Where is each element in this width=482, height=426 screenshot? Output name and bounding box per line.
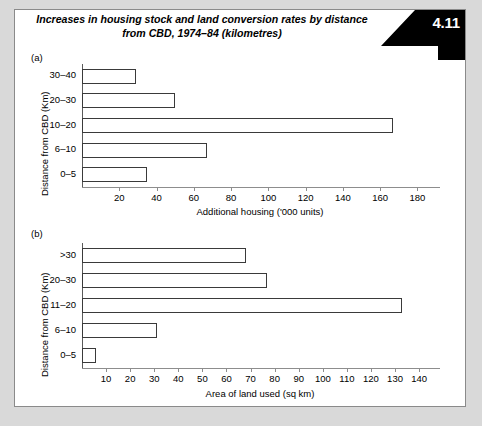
bar (82, 118, 393, 133)
bar (82, 248, 246, 263)
x-axis-title-b: Area of land used (sq km) (82, 388, 438, 399)
x-axis-tick (231, 187, 232, 191)
x-axis-tick (157, 187, 158, 191)
x-axis-tick (299, 368, 300, 372)
x-axis-tick (371, 368, 372, 372)
chart-panel-a: (a) Distance from CBD (Km) 0–56–1010–202… (15, 46, 466, 221)
x-axis-tick (417, 187, 418, 191)
x-axis-line-b (82, 368, 440, 369)
category-label: 6–10 (30, 324, 76, 335)
x-axis-line-a (82, 187, 440, 188)
category-label: 0–5 (30, 349, 76, 360)
category-label: 20–30 (30, 274, 76, 285)
category-label: 20–30 (30, 94, 76, 105)
x-axis-tick (202, 368, 203, 372)
x-axis-tick (306, 187, 307, 191)
x-axis-tick (275, 368, 276, 372)
bar (82, 93, 175, 108)
x-axis-tick (347, 368, 348, 372)
x-axis-tick (130, 368, 131, 372)
chart-panel-b: (b) Distance from CBD (Km) 0–56–1011–202… (15, 222, 466, 407)
x-axis-tick-label: 180 (397, 192, 437, 203)
figure-container: Increases in housing stock and land conv… (14, 9, 466, 407)
x-axis-tick (343, 187, 344, 191)
x-axis-tick-label: 80 (211, 192, 251, 203)
bar (82, 69, 136, 84)
x-axis-tick (395, 368, 396, 372)
x-axis-tick-label: 20 (99, 192, 139, 203)
x-axis-tick-label: 120 (286, 192, 326, 203)
plot-area-b: 0–56–1011–2020–30>3010203040506070809010… (82, 243, 452, 368)
x-axis-tick (119, 187, 120, 191)
x-axis-tick (178, 368, 179, 372)
category-label: >30 (30, 249, 76, 260)
plot-area-a: 0–56–1010–2020–3030–40204060801001201401… (82, 64, 452, 187)
bar (82, 298, 402, 313)
x-axis-tick (251, 368, 252, 372)
figure-title-band: Increases in housing stock and land conv… (15, 10, 466, 48)
x-axis-tick (419, 368, 420, 372)
x-axis-tick (268, 187, 269, 191)
x-axis-tick-label: 40 (137, 192, 177, 203)
x-axis-tick (323, 368, 324, 372)
page-title: Increases in housing stock and land conv… (27, 13, 377, 40)
x-axis-tick-label: 140 (323, 192, 363, 203)
x-axis-tick (380, 187, 381, 191)
bar (82, 167, 147, 182)
bar (82, 348, 96, 363)
bar (82, 323, 157, 338)
x-axis-tick (226, 368, 227, 372)
figure-number-label: 4.11 (432, 14, 460, 31)
x-axis-tick-label: 100 (248, 192, 288, 203)
category-label: 30–40 (30, 69, 76, 80)
bar (82, 143, 207, 158)
x-axis-tick (106, 368, 107, 372)
category-label: 11–20 (30, 299, 76, 310)
category-label: 6–10 (30, 143, 76, 154)
bar (82, 273, 267, 288)
x-axis-tick-label: 160 (360, 192, 400, 203)
category-label: 0–5 (30, 168, 76, 179)
x-axis-tick-label: 140 (399, 373, 439, 384)
category-label: 10–20 (30, 119, 76, 130)
x-axis-title-a: Additional housing ('000 units) (82, 206, 438, 217)
panel-a-label: (a) (31, 52, 43, 63)
x-axis-tick (154, 368, 155, 372)
panel-b-label: (b) (31, 228, 43, 239)
x-axis-tick (194, 187, 195, 191)
x-axis-tick-label: 60 (174, 192, 214, 203)
